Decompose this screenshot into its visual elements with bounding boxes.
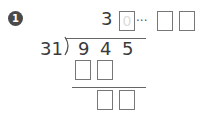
divisor: 31 xyxy=(40,40,63,58)
remainder-box-1[interactable] xyxy=(157,11,173,31)
quotient-hint: 0 xyxy=(120,12,134,30)
difference-box-1[interactable] xyxy=(97,90,113,110)
product-box-1[interactable] xyxy=(75,60,91,80)
dividend-digit-3: 5 xyxy=(122,40,133,58)
difference-box-2[interactable] xyxy=(119,90,135,110)
product-box-2[interactable] xyxy=(97,60,113,80)
dividend-digit-2: 4 xyxy=(100,40,111,58)
division-bracket xyxy=(64,36,72,56)
dividend-digit-1: 9 xyxy=(78,40,89,58)
remainder-box-2[interactable] xyxy=(179,11,195,31)
quotient-digit: 3 xyxy=(101,10,112,28)
remainder-separator: ··· xyxy=(136,14,147,28)
problem-number-badge: 1 xyxy=(8,11,23,26)
quotient-answer-box[interactable]: 0 xyxy=(119,11,135,31)
subtraction-line xyxy=(72,87,146,88)
